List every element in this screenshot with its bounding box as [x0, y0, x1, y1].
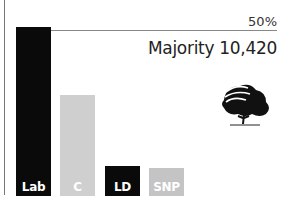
y-axis-line — [4, 0, 5, 195]
bar-snp: SNP — [149, 168, 184, 196]
bar-label-ld: LD — [105, 180, 140, 194]
bar-ld: LD — [105, 166, 140, 196]
bar-label-snp: SNP — [149, 180, 184, 194]
conservative-tree-icon — [216, 80, 276, 130]
majority-label: Majority 10,420 — [148, 38, 277, 58]
bar-c: C — [60, 95, 95, 196]
fifty-percent-label: 50% — [248, 14, 277, 29]
bar-label-lab: Lab — [16, 180, 51, 194]
bar-label-c: C — [60, 180, 95, 194]
bar-lab: Lab — [16, 27, 51, 196]
fifty-percent-line — [51, 30, 277, 31]
